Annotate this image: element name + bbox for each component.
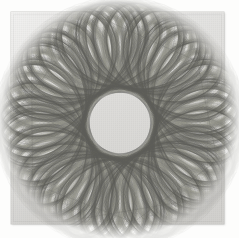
image-canvas: Spirograph rosette drawing on paper Penc… xyxy=(0,0,239,238)
drawing-description: Pencil spirograph (hypotrochoid) rosette… xyxy=(0,0,1,1)
drawing-title: Spirograph rosette drawing on paper xyxy=(0,0,1,1)
paper-sheet xyxy=(11,12,224,224)
